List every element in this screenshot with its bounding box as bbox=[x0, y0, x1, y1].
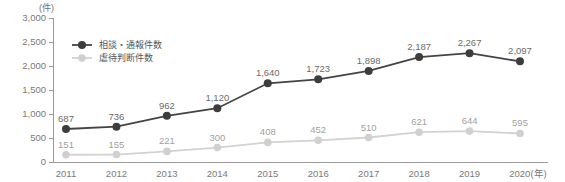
data-label-secondary: 621 bbox=[411, 116, 427, 127]
data-point-secondary bbox=[365, 134, 373, 142]
data-point-primary bbox=[365, 67, 373, 75]
legend-label-1: 相談・通報件数 bbox=[99, 39, 162, 50]
data-point-secondary bbox=[163, 148, 171, 156]
x-axis-tick-label: 2014 bbox=[207, 168, 228, 179]
x-axis-tick-label: 2020(年) bbox=[509, 168, 546, 179]
data-label-primary: 1,723 bbox=[306, 63, 330, 74]
data-point-secondary bbox=[466, 127, 474, 135]
data-point-primary bbox=[466, 49, 474, 57]
data-point-primary bbox=[163, 112, 171, 120]
x-axis-tick-label: 2015 bbox=[257, 168, 278, 179]
y-axis-unit-label: (件) bbox=[39, 2, 54, 13]
data-point-secondary bbox=[264, 139, 272, 147]
y-axis-tick-label: 1,500 bbox=[22, 84, 46, 95]
data-point-primary bbox=[516, 57, 524, 65]
data-label-secondary: 408 bbox=[260, 126, 276, 137]
data-label-secondary: 300 bbox=[209, 132, 225, 143]
data-label-secondary: 644 bbox=[462, 115, 478, 126]
data-label-secondary: 595 bbox=[512, 117, 528, 128]
data-point-primary bbox=[264, 79, 272, 87]
data-point-secondary bbox=[214, 144, 222, 152]
data-label-primary: 1,898 bbox=[357, 55, 381, 66]
legend-label-2: 虐待判断件数 bbox=[99, 52, 153, 63]
data-label-primary: 1,120 bbox=[205, 92, 229, 103]
data-point-secondary bbox=[516, 130, 524, 138]
data-point-primary bbox=[415, 53, 423, 61]
data-label-primary: 1,640 bbox=[256, 67, 280, 78]
data-label-primary: 962 bbox=[159, 100, 175, 111]
data-label-secondary: 151 bbox=[58, 139, 74, 150]
x-axis-tick-label: 2012 bbox=[106, 168, 127, 179]
y-axis-tick-label: 500 bbox=[30, 132, 46, 143]
data-label-secondary: 452 bbox=[310, 124, 326, 135]
y-axis-tick-label: 2,500 bbox=[22, 36, 46, 47]
y-axis-tick-label: 1,000 bbox=[22, 108, 46, 119]
data-point-primary bbox=[213, 104, 221, 112]
data-point-primary bbox=[314, 75, 322, 83]
data-point-primary bbox=[62, 125, 70, 133]
chart-container: (件)05001,0001,5002,0002,5003,00020112012… bbox=[0, 0, 565, 182]
legend-swatch-marker-2 bbox=[78, 54, 86, 62]
line-chart: (件)05001,0001,5002,0002,5003,00020112012… bbox=[0, 0, 565, 182]
data-label-secondary: 221 bbox=[159, 135, 175, 146]
x-axis-tick-label: 2019 bbox=[459, 168, 480, 179]
x-axis-tick-label: 2018 bbox=[409, 168, 430, 179]
x-axis-tick-label: 2011 bbox=[56, 168, 76, 179]
data-point-secondary bbox=[415, 128, 423, 136]
data-point-secondary bbox=[62, 151, 70, 159]
data-label-primary: 2,187 bbox=[407, 41, 431, 52]
y-axis-tick-label: 0 bbox=[41, 156, 46, 167]
data-label-secondary: 510 bbox=[361, 122, 377, 133]
data-label-primary: 2,097 bbox=[508, 45, 532, 56]
data-point-primary bbox=[112, 123, 120, 131]
data-label-primary: 736 bbox=[109, 111, 125, 122]
data-label-primary: 2,267 bbox=[458, 37, 482, 48]
series-line-primary bbox=[66, 53, 520, 129]
x-axis-tick-label: 2016 bbox=[308, 168, 329, 179]
y-axis-tick-label: 2,000 bbox=[22, 60, 46, 71]
x-axis-tick-label: 2013 bbox=[156, 168, 177, 179]
data-label-secondary: 155 bbox=[109, 139, 125, 150]
x-axis-tick-label: 2017 bbox=[358, 168, 379, 179]
series-line-secondary bbox=[66, 131, 520, 155]
data-label-primary: 687 bbox=[58, 113, 74, 124]
data-point-secondary bbox=[113, 151, 121, 159]
legend-swatch-marker-1 bbox=[78, 41, 86, 49]
y-axis-tick-label: 3,000 bbox=[22, 12, 46, 23]
data-point-secondary bbox=[314, 137, 322, 145]
